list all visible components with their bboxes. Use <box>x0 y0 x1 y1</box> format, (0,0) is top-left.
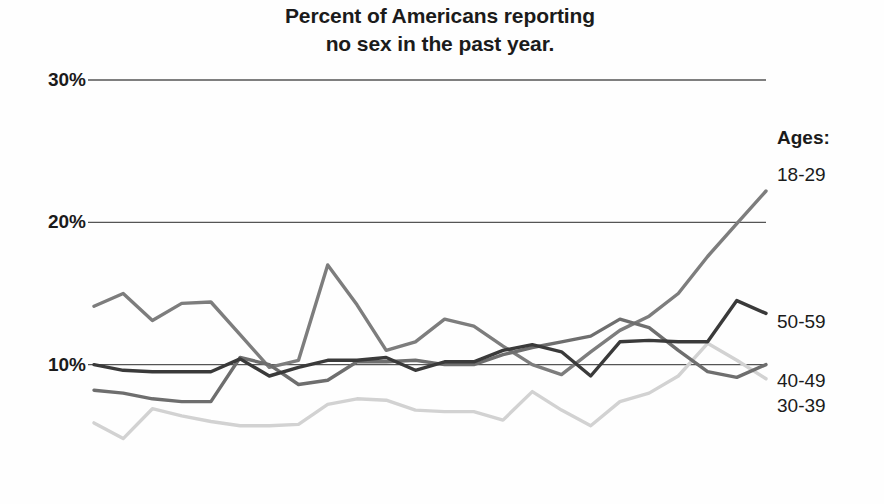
ytick-label-20: 20% <box>28 212 86 232</box>
series-lines <box>94 191 766 439</box>
chart-screenshot: Percent of Americans reporting no sex in… <box>0 0 884 504</box>
legend-title: Ages: <box>777 128 830 147</box>
legend-item-18-29: 18-29 <box>777 165 826 184</box>
series-line-18-29 <box>94 191 766 375</box>
ytick-text-10: 10% <box>28 355 86 374</box>
legend-item-50-59: 50-59 <box>777 312 826 331</box>
plot-canvas <box>0 0 884 504</box>
ytick-label-30: 30% <box>28 70 86 90</box>
series-line-30-39 <box>94 343 766 438</box>
legend-item-30-39: 30-39 <box>777 396 826 415</box>
plot-area <box>0 0 884 504</box>
legend-item-40-49: 40-49 <box>777 371 826 390</box>
ytick-text-30: 30% <box>28 70 86 89</box>
ytick-label-10: 10% <box>28 355 86 375</box>
gridlines <box>88 80 766 365</box>
ytick-text-20: 20% <box>28 212 86 231</box>
